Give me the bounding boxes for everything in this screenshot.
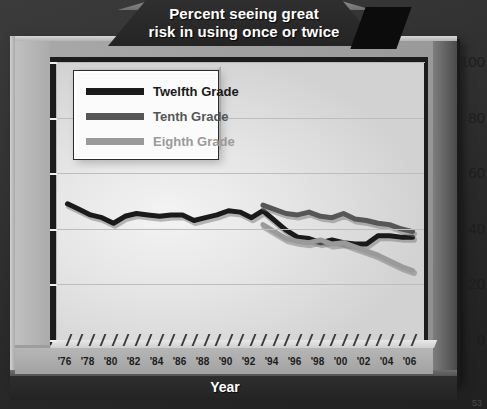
y-axis-tick-label: 80 (451, 110, 485, 125)
x-axis-tick-label: '78 (76, 356, 100, 367)
x-axis-tick-label: '82 (122, 356, 146, 367)
page-number: 53 (472, 398, 482, 408)
chart-box-right-shade (433, 41, 457, 381)
y-axis-tick-label: 20 (451, 276, 485, 291)
x-axis-tick-label: '98 (306, 356, 330, 367)
legend: Twelfth GradeTenth GradeEighth Grade (73, 70, 219, 160)
y-axis-tick-label: 40 (451, 221, 485, 236)
legend-swatch (86, 88, 144, 95)
y-axis-tick (50, 118, 57, 120)
legend-swatch (86, 138, 144, 145)
y-axis-tick (50, 62, 57, 64)
legend-label: Twelfth Grade (153, 84, 239, 99)
legend-item: Eighth Grade (86, 130, 235, 152)
y-axis-tick (50, 340, 57, 342)
legend-item: Twelfth Grade (86, 80, 239, 102)
chart-title: Percent seeing great risk in using once … (108, 5, 380, 47)
legend-label: Tenth Grade (153, 109, 229, 124)
y-axis-strip (15, 41, 50, 345)
y-axis-tick-label: 60 (451, 165, 485, 180)
legend-label: Eighth Grade (153, 134, 235, 149)
x-axis-tick-label: '94 (260, 356, 284, 367)
chart-figure: Percent seeing great risk in using once … (0, 0, 487, 409)
y-axis-tick (50, 229, 57, 231)
chart-title-line2: risk in using once or twice (108, 23, 380, 41)
x-axis-tick-label: '84 (145, 356, 169, 367)
chart-title-line1: Percent seeing great (108, 5, 380, 23)
legend-swatch (86, 113, 144, 120)
gridline (56, 229, 424, 230)
x-axis-tick-label: '88 (191, 356, 215, 367)
y-axis-tick (50, 173, 57, 175)
y-axis-tick-label: 0 (451, 332, 485, 347)
y-axis-tick (50, 284, 57, 286)
x-axis-title: Year (10, 379, 440, 399)
y-axis-tick-label: 100 (451, 54, 485, 69)
x-axis-tick-label: '90 (214, 356, 238, 367)
x-axis-tick-label: '96 (283, 356, 307, 367)
x-axis-tick-label: '92 (237, 356, 261, 367)
x-axis-tick-label: '02 (352, 356, 376, 367)
gridline (56, 173, 424, 174)
x-axis-tick-label: '04 (375, 356, 399, 367)
x-axis-tick-label: '76 (53, 356, 77, 367)
x-axis-tick-label: '80 (99, 356, 123, 367)
gridline (56, 284, 424, 285)
x-axis-tick-label: '00 (329, 356, 353, 367)
legend-item: Tenth Grade (86, 105, 229, 127)
x-axis-tick-label: '86 (168, 356, 192, 367)
x-axis-tick-label: '06 (398, 356, 422, 367)
